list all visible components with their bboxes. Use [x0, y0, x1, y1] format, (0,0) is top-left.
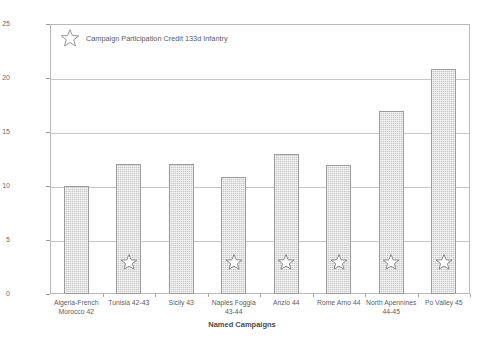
x-tick-label: Naples Foggia43-44: [208, 299, 261, 316]
y-tick-mark: [46, 294, 50, 295]
chart-legend: Campaign Participation Credit 133d Infan…: [60, 28, 228, 48]
bar: [169, 164, 194, 294]
y-tick-label: 20: [0, 74, 10, 81]
y-tick-label: 10: [0, 182, 10, 189]
star-icon: [435, 253, 453, 271]
bar: [221, 177, 246, 294]
x-tick-label: Anzio 44: [260, 299, 313, 308]
y-tick-label: 5: [0, 236, 10, 243]
x-tick-mark: [208, 294, 209, 297]
x-tick-label: Rome Arno 44: [313, 299, 366, 308]
star-icon: [382, 253, 400, 271]
star-icon: [225, 253, 243, 271]
star-icon: [277, 253, 295, 271]
star-icon: [60, 28, 80, 48]
x-tick-mark: [365, 294, 366, 297]
x-tick-mark: [155, 294, 156, 297]
x-tick-label: Po Valley 45: [418, 299, 471, 308]
bar: [326, 165, 351, 294]
x-tick-mark: [313, 294, 314, 297]
y-tick-label: 0: [0, 290, 10, 297]
bar: [64, 186, 89, 294]
bar: [274, 154, 299, 294]
x-tick-label: Sicily 43: [155, 299, 208, 308]
x-tick-mark: [470, 294, 471, 297]
star-icon: [120, 253, 138, 271]
y-tick-label: 15: [0, 128, 10, 135]
legend-label: Campaign Participation Credit 133d Infan…: [86, 34, 228, 43]
bar-chart: Number of Regiments participating at som…: [0, 0, 484, 342]
bar: [116, 164, 141, 294]
x-tick-label: Algeria-FrenchMorocco 42: [50, 299, 103, 316]
x-tick-label: North Apennines44-45: [365, 299, 418, 316]
bars-layer: [50, 24, 470, 294]
star-icon: [330, 253, 348, 271]
bar: [379, 111, 404, 294]
x-tick-label: Tunisia 42-43: [103, 299, 156, 308]
x-tick-mark: [418, 294, 419, 297]
y-tick-label: 25: [0, 20, 10, 27]
x-tick-mark: [103, 294, 104, 297]
bar: [431, 69, 456, 294]
x-axis-title: Named Campaigns: [0, 320, 484, 329]
x-tick-mark: [260, 294, 261, 297]
